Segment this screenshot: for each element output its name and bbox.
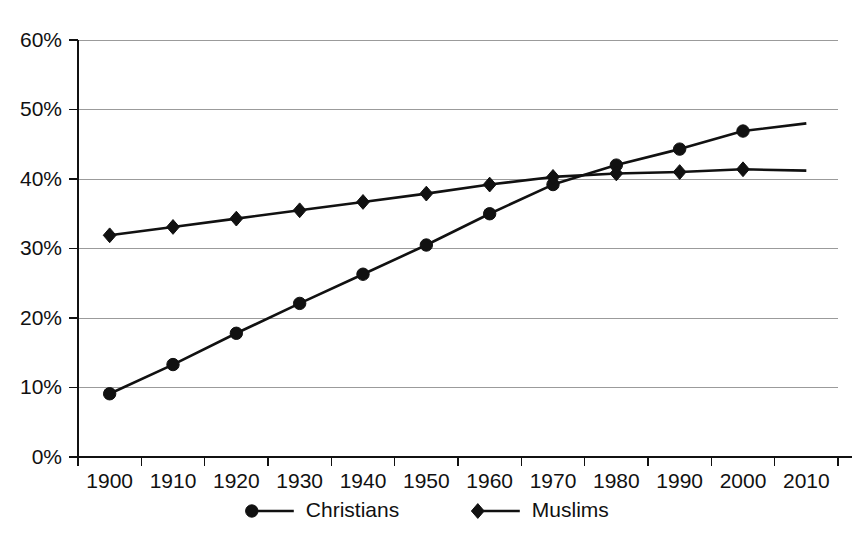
legend-label: Christians: [306, 498, 399, 521]
data-point-marker: [167, 220, 180, 235]
gridlines-group: [78, 40, 838, 457]
y-axis-label: 10%: [20, 375, 62, 398]
y-axis-label: 20%: [20, 306, 62, 329]
legend-label: Muslims: [532, 498, 609, 521]
line-chart: 0%10%20%30%40%50%60% 1900191019201930194…: [0, 0, 856, 546]
legend-item-christians[interactable]: Christians: [246, 498, 400, 521]
data-point-marker: [420, 186, 433, 201]
x-axis-label: 1990: [656, 469, 703, 492]
data-point-marker: [673, 165, 686, 180]
data-series-group: [103, 123, 806, 400]
y-axis-label: 30%: [20, 236, 62, 259]
x-axis-label: 1930: [276, 469, 323, 492]
x-axis-label: 1960: [466, 469, 513, 492]
data-point-marker: [737, 162, 750, 177]
y-axis-label: 0%: [32, 445, 62, 468]
y-axis-label: 50%: [20, 97, 62, 120]
data-point-marker: [357, 195, 370, 210]
x-axis-label: 1980: [593, 469, 640, 492]
y-axis-label: 60%: [20, 28, 62, 51]
series-line: [110, 123, 807, 393]
data-point-marker: [357, 268, 369, 280]
data-point-marker: [230, 211, 243, 226]
y-axis-ticks-group: [69, 40, 78, 457]
data-point-marker: [167, 358, 179, 370]
legend-item-muslims[interactable]: Muslims: [471, 498, 608, 521]
x-axis-label: 2010: [783, 469, 830, 492]
data-point-marker: [673, 143, 685, 155]
x-axis-ticks-group: [78, 457, 838, 466]
x-axis-label: 1910: [150, 469, 197, 492]
y-axis-label: 40%: [20, 167, 62, 190]
data-point-marker: [737, 125, 749, 137]
data-point-marker: [483, 208, 495, 220]
series-christians: [103, 123, 806, 400]
x-axis-label: 1970: [530, 469, 577, 492]
data-point-marker: [293, 203, 306, 218]
data-point-marker: [420, 239, 432, 251]
x-axis-label: 1900: [86, 469, 133, 492]
legend: ChristiansMuslims: [246, 498, 609, 521]
x-axis-label: 1940: [340, 469, 387, 492]
x-axis-label: 1920: [213, 469, 260, 492]
data-point-marker: [103, 388, 115, 400]
chart-container: 0%10%20%30%40%50%60% 1900191019201930194…: [0, 0, 856, 546]
x-axis-label: 2000: [720, 469, 767, 492]
x-axis-label: 1950: [403, 469, 450, 492]
x-axis-labels-group: 1900191019201930194019501960197019801990…: [86, 469, 829, 492]
data-point-marker: [230, 327, 242, 339]
data-point-marker: [103, 228, 116, 243]
data-point-marker: [293, 297, 305, 309]
y-axis-labels-group: 0%10%20%30%40%50%60%: [20, 28, 62, 468]
